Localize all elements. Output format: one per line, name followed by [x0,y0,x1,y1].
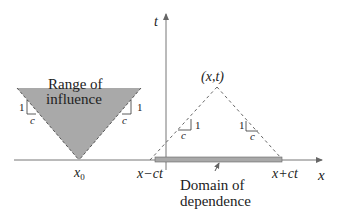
x0-label: x0 [73,165,85,182]
domain-pointer-arrow [215,163,219,171]
svg-text:1: 1 [239,119,245,131]
x-plus-ct-label: x+ct [271,166,299,181]
x-minus-ct-label: x−ct [136,166,164,181]
svg-text:c: c [250,130,255,142]
wave-diagram: t x Range of influence 1 c 1 c x0 (x,t) … [0,0,341,220]
svg-text:c: c [30,114,35,126]
range-of-influence-label-2: influence [46,91,102,107]
svg-text:1: 1 [137,101,143,113]
svg-text:c: c [122,114,127,126]
domain-label-2: dependence [180,193,251,209]
right-characteristic [217,87,281,158]
domain-label-1: Domain of [180,177,245,193]
slope-marker-right-dependence: 1 c [239,119,258,142]
domain-of-dependence-bar [155,157,282,162]
svg-text:1: 1 [19,101,25,113]
slope-marker-left-dependence: 1 c [178,119,201,141]
svg-text:c: c [181,129,186,141]
x-axis-label: x [317,167,325,183]
range-of-influence-label-1: Range of [48,76,103,92]
point-label: (x,t) [201,69,224,85]
left-characteristic [150,87,217,160]
t-axis-label: t [154,14,159,29]
svg-text:1: 1 [195,119,201,131]
